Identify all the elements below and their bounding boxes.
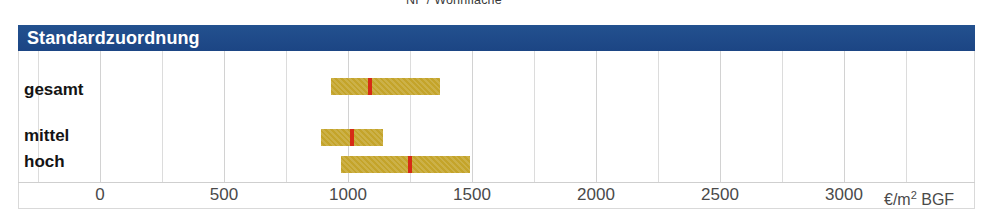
row-label-mittel: mittel (24, 126, 69, 146)
tick-label-1000: 1000 (329, 184, 367, 206)
top-caption: NF / Wohnfläche (0, 0, 988, 4)
gridline-1500 (472, 51, 473, 183)
gridline-3250 (906, 51, 907, 183)
tick-label-500: 500 (210, 184, 238, 206)
median-marker-hoch (408, 156, 412, 173)
axis-line (18, 182, 975, 183)
section-header-band: Standardzuordnung (18, 25, 975, 51)
tick-label-2000: 2000 (577, 184, 615, 206)
axis-unit-exponent: 2 (911, 189, 917, 201)
gridline-2750 (782, 51, 783, 183)
median-marker-mittel (350, 129, 354, 146)
gridline-500 (224, 51, 225, 183)
tick-label-0: 0 (95, 184, 104, 206)
row-label-hoch: hoch (24, 152, 65, 172)
tick-label-2500: 2500 (701, 184, 739, 206)
median-marker-gesamt (368, 78, 372, 95)
page-title: Standardzuordnung (27, 28, 200, 48)
tick-label-3000: 3000 (825, 184, 863, 206)
gridline-2250 (658, 51, 659, 183)
range-bar-hoch (341, 156, 470, 173)
axis-tick-labels: €/m2 BGF 050010001500200025003000 (0, 184, 988, 210)
gridline-0 (100, 51, 101, 183)
range-bar-gesamt (331, 78, 440, 95)
plot-area (18, 51, 975, 183)
gridline-2000 (596, 51, 597, 183)
axis-unit-label: €/m2 BGF (884, 184, 954, 211)
row-label-gesamt: gesamt (24, 80, 84, 100)
gridline-250 (162, 51, 163, 183)
gridline-1750 (534, 51, 535, 183)
tick-label-1500: 1500 (453, 184, 491, 206)
gridline-2500 (720, 51, 721, 183)
gridline-750 (286, 51, 287, 183)
gridline-3000 (844, 51, 845, 183)
